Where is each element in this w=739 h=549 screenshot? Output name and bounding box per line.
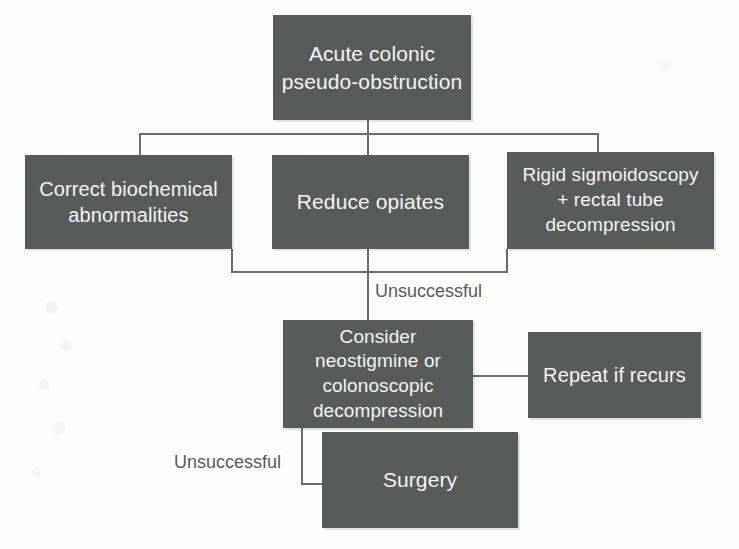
node-correct-biochemical-abnormalities[interactable]: Correct biochemical abnormalities — [25, 155, 232, 249]
edge-opiates-to-consider — [367, 249, 369, 320]
edge-drop-to-opiates — [367, 133, 369, 155]
node-acute-colonic-pseudo-obstruction[interactable]: Acute colonic pseudo-obstruction — [273, 15, 471, 120]
node-label: Correct biochemical abnormalities — [39, 176, 218, 228]
edge-sigmoid-down — [506, 249, 508, 272]
node-label: Rigid sigmoidoscopy + rectal tube decomp… — [522, 163, 698, 237]
node-repeat-if-recurs[interactable]: Repeat if recurs — [528, 332, 701, 418]
edge-consider-down-left — [301, 428, 303, 484]
edge-drop-to-biochem — [139, 133, 141, 155]
node-rigid-sigmoidoscopy-rectal-tube-decompression[interactable]: Rigid sigmoidoscopy + rectal tube decomp… — [507, 152, 714, 249]
node-label: Acute colonic pseudo-obstruction — [282, 40, 462, 95]
edge-label-unsuccessful-lower: Unsuccessful — [174, 452, 281, 473]
edge-consider-to-repeat — [473, 375, 529, 377]
node-label: Repeat if recurs — [543, 362, 686, 388]
flowchart-canvas: Unsuccessful Unsuccessful Acute colonic … — [0, 0, 739, 549]
node-label: Consider neostigmine or colonoscopic dec… — [313, 325, 443, 424]
edge-biochem-down — [231, 249, 233, 272]
edge-merge-bus — [231, 271, 508, 273]
edge-label-unsuccessful-upper: Unsuccessful — [375, 281, 482, 302]
edge-top-bus — [139, 133, 599, 135]
node-surgery[interactable]: Surgery — [322, 432, 518, 528]
node-consider-neostigmine-or-colonoscopic-decompression[interactable]: Consider neostigmine or colonoscopic dec… — [283, 320, 473, 428]
node-reduce-opiates[interactable]: Reduce opiates — [272, 155, 469, 249]
node-label: Reduce opiates — [297, 188, 444, 215]
node-label: Surgery — [383, 466, 457, 493]
